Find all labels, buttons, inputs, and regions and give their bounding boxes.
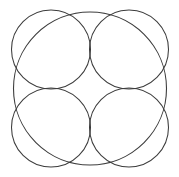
rosette-figure: Geometric rosette of five overlapping ci… xyxy=(0,0,179,177)
figure-background xyxy=(0,0,179,177)
rosette-canvas xyxy=(0,0,179,177)
